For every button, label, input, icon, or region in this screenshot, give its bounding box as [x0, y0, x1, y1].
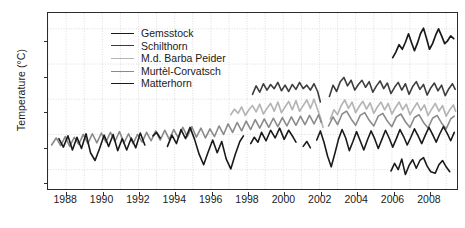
legend-line-swatch: [111, 71, 134, 72]
y-axis-title: Temperature (°C): [15, 25, 27, 155]
data-layer: [48, 13, 457, 189]
legend: GemsstockSchilthornM.d. Barba PeiderMurt…: [111, 27, 226, 90]
legend-item-matterhorn: Matterhorn: [111, 77, 226, 90]
legend-item-label: Matterhorn: [141, 78, 192, 89]
y-tick-mark: [44, 77, 48, 78]
legend-line-swatch: [111, 83, 134, 84]
legend-item-murt-l-corvatsch: Murtèl-Corvatsch: [111, 65, 226, 78]
plot-area: GemsstockSchilthornM.d. Barba PeiderMurt…: [47, 12, 458, 190]
y-tick-mark: [44, 112, 48, 113]
y-tick-mark: [44, 183, 48, 184]
temperature-timeseries-figure: Temperature (°C) 10−1−2−3 GemsstockSchil…: [0, 0, 465, 228]
legend-line-swatch: [111, 45, 134, 46]
y-tick-mark: [44, 41, 48, 42]
legend-item-gemsstock: Gemsstock: [111, 27, 226, 40]
legend-item-label: Gemsstock: [141, 28, 194, 39]
legend-item-label: Murtèl-Corvatsch: [141, 66, 221, 77]
legend-item-schilthorn: Schilthorn: [111, 40, 226, 53]
series-schilthorn: [253, 77, 456, 102]
y-tick-mark: [44, 148, 48, 149]
legend-item-label: Schilthorn: [141, 41, 188, 52]
series-gemsstock: [393, 28, 454, 58]
x-tick-label: 2008: [399, 194, 459, 205]
legend-item-label: M.d. Barba Peider: [141, 53, 226, 64]
legend-line-swatch: [111, 33, 134, 34]
legend-item-m-d-barba-peider: M.d. Barba Peider: [111, 52, 226, 65]
legend-line-swatch: [111, 58, 134, 59]
